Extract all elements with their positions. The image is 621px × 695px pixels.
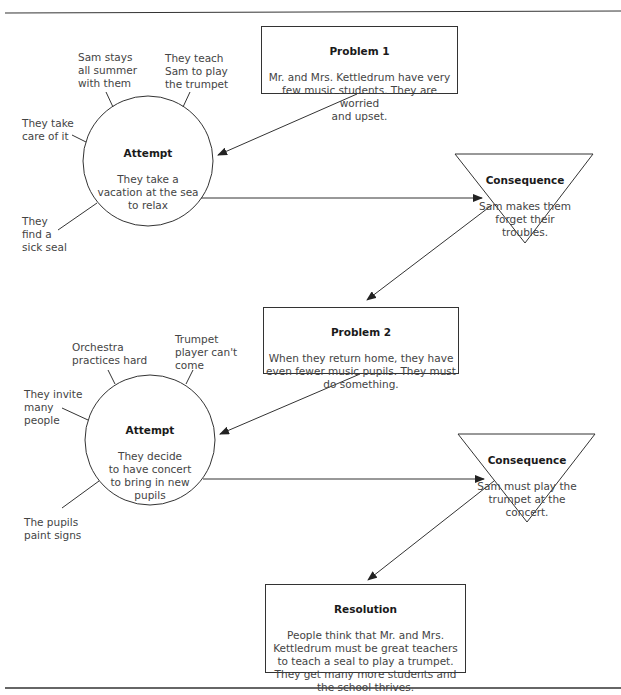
consequence-1-title: Consequence <box>473 174 577 187</box>
detail-2-paint-signs: The pupils paint signs <box>24 516 81 542</box>
problem-2-text: When they return home, they have even fe… <box>264 352 458 391</box>
problem-2-title: Problem 2 <box>264 326 458 339</box>
detail-1-sam-stays: Sam stays all summer with them <box>78 51 137 90</box>
detail-2-trumpet-player: Trumpet player can't come <box>175 333 237 372</box>
attempt-1-node: Attempt They take a vacation at the sea … <box>93 134 203 225</box>
spoke-2b <box>186 370 193 384</box>
attempt-2-text: They decide to have concert to bring in … <box>95 450 205 502</box>
consequence-1-node: Consequence Sam makes them forget their … <box>473 161 577 252</box>
detail-1-take-care: They take care of it <box>22 117 74 143</box>
problem-1-text: Mr. and Mrs. Kettledrum have very few mu… <box>262 71 457 123</box>
resolution-title: Resolution <box>266 603 465 616</box>
detail-2-invite-people: They invite many people <box>24 388 82 427</box>
consequence-2-title: Consequence <box>472 454 582 467</box>
spoke-1a <box>106 92 113 107</box>
spoke-2d <box>62 481 99 508</box>
attempt-1-title: Attempt <box>93 147 203 160</box>
problem-1-box: Problem 1 Mr. and Mrs. Kettledrum have v… <box>261 26 458 94</box>
attempt-1-text: They take a vacation at the sea to relax <box>93 173 203 212</box>
problem-2-box: Problem 2 When they return home, they ha… <box>263 307 459 374</box>
top-rule <box>5 11 621 13</box>
attempt-2-node: Attempt They decide to have concert to b… <box>95 411 205 515</box>
resolution-text: People think that Mr. and Mrs. Kettledru… <box>266 629 465 694</box>
attempt-2-title: Attempt <box>95 424 205 437</box>
consequence-2-node: Consequence Sam must play the trumpet at… <box>472 441 582 532</box>
detail-1-teach-trumpet: They teach Sam to play the trumpet <box>165 52 228 91</box>
consequence-1-text: Sam makes them forget their troubles. <box>473 200 577 239</box>
problem-1-title: Problem 1 <box>262 45 457 58</box>
detail-1-find-seal: They find a sick seal <box>22 215 67 254</box>
spoke-1c <box>72 135 86 142</box>
resolution-box: Resolution People think that Mr. and Mrs… <box>265 584 466 673</box>
spoke-1b <box>183 92 190 107</box>
consequence-2-text: Sam must play the trumpet at the concert… <box>472 480 582 519</box>
detail-2-orchestra: Orchestra practices hard <box>72 341 147 367</box>
spoke-2a <box>108 370 115 384</box>
